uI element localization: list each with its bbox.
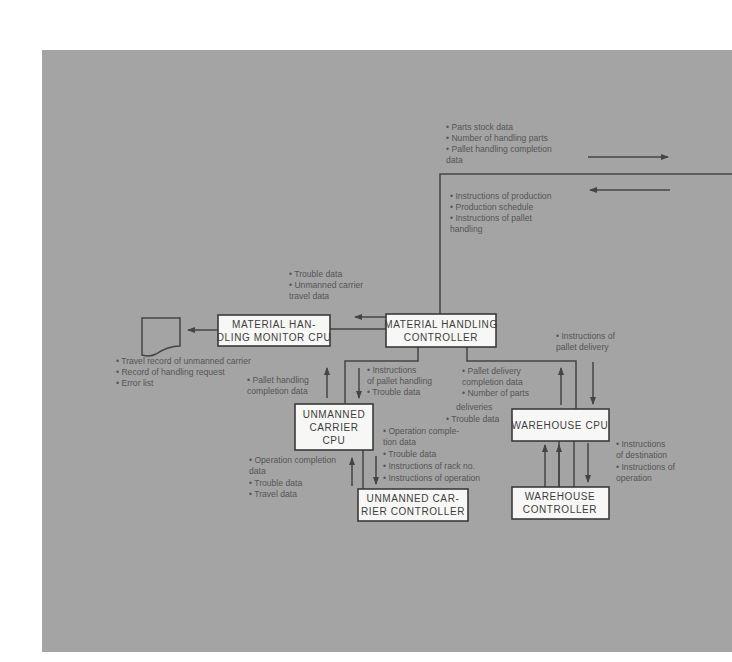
svg-text:• Instructions of: • Instructions of [616, 462, 676, 472]
svg-text:handling: handling [450, 224, 483, 234]
svg-text:pallet delivery: pallet delivery [556, 342, 609, 352]
svg-text:deliveries: deliveries [456, 402, 492, 412]
box-label-line: MATERIAL HANDLING [384, 319, 498, 330]
svg-text:• Instructions of pallet: • Instructions of pallet [450, 213, 532, 223]
svg-text:• Trouble data: • Trouble data [289, 269, 342, 279]
svg-text:of destination: of destination [616, 450, 667, 460]
note-warehouse-down: • Instructions of pallet delivery [556, 331, 616, 352]
svg-text:• Number of handling parts: • Number of handling parts [446, 133, 548, 143]
box-label-line: DLING MONITOR CPU [217, 332, 331, 343]
note-to-monitor: • Trouble data • Unmanned carrier travel… [289, 269, 363, 301]
svg-text:• Parts stock data: • Parts stock data [446, 122, 513, 132]
document-icon [142, 318, 180, 356]
svg-text:• Operation completion: • Operation completion [249, 455, 336, 465]
svg-text:travel data: travel data [289, 291, 329, 301]
svg-text:• Operation comple-: • Operation comple- [383, 426, 459, 436]
material-handling-controller-box[interactable]: MATERIAL HANDLING CONTROLLER [384, 314, 498, 347]
svg-text:• Instructions: • Instructions [367, 365, 416, 375]
note-warehouse-controller-down: • Instructions of destination • Instruct… [616, 439, 676, 483]
svg-text:• Trouble data: • Trouble data [446, 414, 499, 424]
box-label-line: CONTROLLER [404, 332, 478, 343]
note-carrier-down: • Instructions of pallet handling • Trou… [367, 365, 432, 397]
box-label-line: UNMANNED [303, 409, 366, 420]
svg-text:• Instructions of operation: • Instructions of operation [383, 473, 480, 483]
svg-text:completion data: completion data [462, 377, 523, 387]
svg-text:• Record of handling request: • Record of handling request [116, 367, 225, 377]
svg-text:• Pallet delivery: • Pallet delivery [462, 366, 522, 376]
note-carrier-controller-down: • Operation comple- tion data • Trouble … [383, 426, 480, 483]
svg-text:• Instructions: • Instructions [616, 439, 665, 449]
note-carrier-controller-up: • Operation completion data • Trouble da… [249, 455, 336, 499]
svg-text:completion data: completion data [247, 386, 308, 396]
unmanned-carrier-controller-box[interactable]: UNMANNED CAR- RIER CONTROLLER [358, 489, 468, 521]
note-upstream-out: • Parts stock data • Number of handling … [446, 122, 552, 165]
box-label-line: CONTROLLER [523, 504, 597, 515]
svg-text:• Error list: • Error list [116, 378, 154, 388]
warehouse-cpu-box[interactable]: WAREHOUSE CPU [512, 409, 609, 441]
svg-text:data: data [249, 466, 266, 476]
svg-text:• Travel record of unmanned ca: • Travel record of unmanned carrier [116, 356, 251, 366]
svg-text:• Instructions of rack no.: • Instructions of rack no. [383, 461, 475, 471]
svg-text:tion data: tion data [383, 437, 416, 447]
svg-text:data: data [446, 155, 463, 165]
box-label-line: CPU [323, 435, 346, 446]
warehouse-controller-box[interactable]: WAREHOUSE CONTROLLER [512, 487, 609, 519]
svg-text:• Production schedule: • Production schedule [450, 202, 533, 212]
note-upstream-in: • Instructions of production • Productio… [450, 191, 552, 234]
box-label-line: CARRIER [309, 422, 358, 433]
box-label-line: WAREHOUSE CPU [512, 420, 609, 431]
svg-text:• Trouble data: • Trouble data [367, 387, 420, 397]
svg-text:operation: operation [616, 473, 652, 483]
box-label-line: UNMANNED CAR- [367, 493, 460, 504]
material-handling-monitor-cpu-box[interactable]: MATERIAL HAN- DLING MONITOR CPU [217, 315, 331, 346]
svg-text:• Pallet handling completion: • Pallet handling completion [446, 144, 552, 154]
svg-text:• Trouble data: • Trouble data [249, 478, 302, 488]
svg-text:• Number of parts: • Number of parts [462, 388, 529, 398]
box-label-line: WAREHOUSE [525, 491, 596, 502]
svg-text:• Unmanned carrier: • Unmanned carrier [289, 280, 363, 290]
svg-text:• Instructions of: • Instructions of [556, 331, 616, 341]
svg-text:• Travel data: • Travel data [249, 489, 297, 499]
unmanned-carrier-cpu-box[interactable]: UNMANNED CARRIER CPU [295, 404, 373, 450]
svg-text:• Trouble data: • Trouble data [383, 449, 436, 459]
svg-text:• Instructions of production: • Instructions of production [450, 191, 552, 201]
box-label-line: RIER CONTROLLER [361, 506, 465, 517]
svg-text:• Pallet handling: • Pallet handling [247, 375, 309, 385]
material-handling-diagram: MATERIAL HANDLING CONTROLLER MATERIAL HA… [0, 0, 732, 662]
note-monitor-output: • Travel record of unmanned carrier • Re… [116, 356, 251, 388]
note-carrier-up: • Pallet handling completion data [247, 375, 309, 396]
box-label-line: MATERIAL HAN- [232, 319, 316, 330]
svg-text:of pallet handling: of pallet handling [367, 376, 432, 386]
